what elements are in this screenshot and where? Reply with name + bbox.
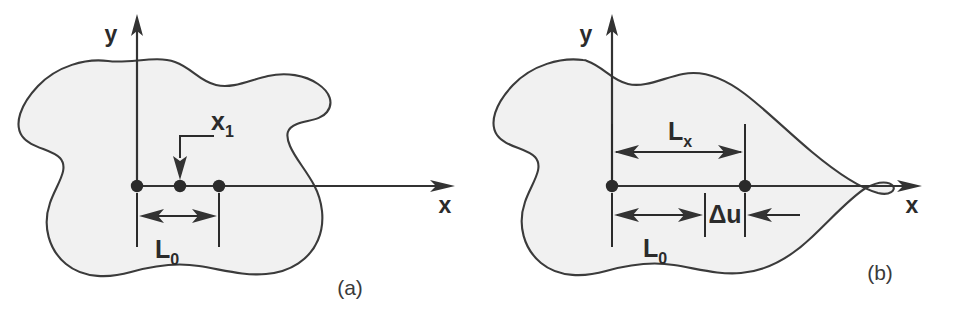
- displacement-label-delta-u: Δu: [708, 200, 741, 228]
- body-outline-undeformed: [19, 59, 331, 276]
- caption-panel-a: (a): [337, 276, 363, 299]
- y-axis-label-a: y: [105, 21, 118, 47]
- node-origin-a: [131, 180, 143, 192]
- figure-container: y x x1 L0 (a): [0, 0, 958, 322]
- x-axis-label-a: x: [439, 192, 452, 218]
- panel-a: y x x1 L0 (a): [19, 14, 455, 299]
- body-outline-deformed: [494, 59, 894, 275]
- caption-panel-b: (b): [867, 261, 893, 284]
- node-displaced-b: [739, 180, 751, 192]
- x-axis-label-b: x: [906, 192, 919, 218]
- node-x1-a: [174, 180, 186, 192]
- y-axis-label-b: y: [580, 21, 593, 47]
- panel-b: y x Lx L0: [494, 14, 922, 284]
- diagram-svg: y x x1 L0 (a): [0, 0, 958, 322]
- node-origin-b: [606, 180, 618, 192]
- node-end-a: [213, 180, 225, 192]
